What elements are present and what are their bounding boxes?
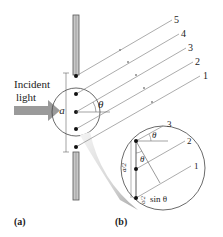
ray-label-1: 1 [203,70,208,81]
angle-arc [93,102,96,112]
panel-a-label: (a) [14,216,26,228]
incident-label-line2: light [16,91,36,103]
diffraction-diagram: a Incident light θ 5 4 3 2 1 [0,0,223,237]
inset-angle-mid: θ [140,154,145,164]
inset-ray-label-2: 2 [187,136,192,146]
ray-label-4: 4 [181,28,186,39]
slit-wall-upper [73,15,79,75]
ray-label-2: 2 [195,56,200,67]
ray-label-5: 5 [174,14,179,25]
inset-path-diff-frac: a/2 [140,196,146,204]
inset-path-diff-label: sin θ [150,194,167,204]
angle-label: θ [98,98,104,110]
inset-half-width-label: a/2 [120,163,128,172]
source-points [74,74,78,149]
incident-label-line1: Incident [14,78,50,90]
rays [76,20,200,147]
inset-ray-label-3: 3 [167,119,172,129]
panel-b-label: (b) [115,216,127,228]
slit-wall-lower [73,152,79,200]
inset-ray-label-1: 1 [194,161,199,171]
slit-width-label: a [59,104,65,116]
ray-label-3: 3 [188,42,193,53]
inset-angle-top: θ [152,130,157,140]
